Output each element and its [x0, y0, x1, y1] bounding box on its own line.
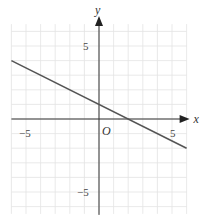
- origin-label: O: [102, 124, 111, 138]
- y-tick-label-neg5: −5: [77, 186, 89, 198]
- x-tick-label-5: 5: [170, 127, 176, 139]
- x-tick-label-neg5: −5: [19, 127, 31, 139]
- x-axis-label: x: [193, 112, 200, 126]
- coordinate-plane: x y O −5 5 5 −5: [0, 0, 206, 223]
- y-axis-arrow-icon: [95, 16, 103, 26]
- y-axis-label: y: [94, 3, 101, 17]
- y-tick-label-5: 5: [83, 40, 89, 52]
- x-axis-arrow-icon: [180, 115, 190, 123]
